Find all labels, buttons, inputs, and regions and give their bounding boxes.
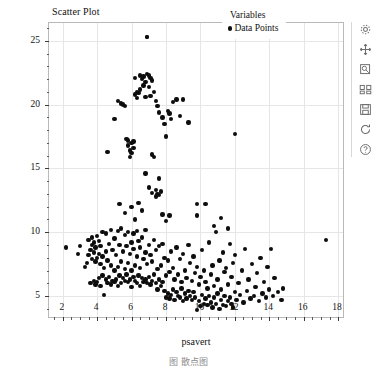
data-point (219, 298, 223, 302)
data-point (238, 293, 242, 297)
data-point (219, 216, 223, 220)
data-point (245, 289, 249, 293)
x-tick-minor (243, 317, 244, 320)
data-point (166, 258, 170, 262)
pan-icon[interactable] (358, 42, 373, 57)
data-point (105, 258, 109, 262)
data-point (129, 151, 133, 155)
data-point (100, 254, 104, 258)
data-point (160, 212, 164, 216)
data-point (154, 99, 158, 103)
legend-entries: Data Points (228, 22, 278, 35)
data-point (105, 150, 109, 154)
data-point (222, 294, 226, 298)
data-point (226, 282, 230, 286)
data-point (210, 263, 214, 267)
data-point (212, 224, 216, 228)
data-point (167, 111, 171, 115)
data-point (229, 275, 233, 279)
data-point (133, 263, 137, 267)
x-tick-major (338, 317, 339, 321)
data-point (126, 230, 130, 234)
data-point (207, 240, 211, 244)
data-point (143, 250, 147, 254)
x-tick-minor (278, 317, 279, 320)
data-point (112, 117, 116, 121)
data-point (174, 97, 178, 101)
data-point (152, 272, 156, 276)
data-point (150, 259, 154, 263)
data-point (138, 87, 142, 91)
data-point (131, 139, 135, 143)
data-point (214, 302, 218, 306)
data-point (269, 247, 273, 251)
plot-axes[interactable] (48, 22, 344, 318)
data-point (138, 245, 142, 249)
data-point (262, 280, 266, 284)
reset-icon[interactable] (358, 122, 373, 137)
data-point (136, 91, 140, 95)
data-point (157, 110, 161, 114)
data-point (116, 265, 120, 269)
data-point (83, 265, 87, 269)
data-point (264, 295, 268, 299)
x-tick-minor (114, 317, 115, 320)
data-point (131, 146, 135, 150)
data-point (186, 120, 190, 124)
data-point (119, 259, 123, 263)
data-point (178, 257, 182, 261)
data-point (186, 289, 190, 293)
data-point (147, 85, 151, 89)
data-point (141, 257, 145, 261)
data-point (93, 259, 97, 263)
zoom-rect-icon[interactable] (358, 62, 373, 77)
data-point (167, 270, 171, 274)
data-point (143, 171, 147, 175)
data-point (135, 254, 139, 258)
data-point (164, 273, 168, 277)
data-point (179, 280, 183, 284)
help-icon[interactable] (358, 142, 373, 157)
data-point (205, 286, 209, 290)
data-point (154, 281, 158, 285)
data-point (198, 275, 202, 279)
data-point (143, 228, 147, 232)
data-point (97, 239, 101, 243)
y-tick-label: 20 (0, 98, 40, 109)
data-point (255, 271, 259, 275)
data-point (138, 266, 142, 270)
configure-icon[interactable] (358, 22, 373, 37)
data-point (152, 90, 156, 94)
save-icon[interactable] (358, 102, 373, 117)
data-point (64, 245, 68, 249)
x-tick-minor (192, 317, 193, 320)
page-title: Scatter Plot (52, 6, 100, 18)
x-tick-minor (54, 317, 55, 320)
data-point (154, 194, 158, 198)
data-point (252, 294, 256, 298)
data-point (203, 202, 207, 206)
x-tick-label: 10 (195, 302, 205, 313)
data-point (231, 261, 235, 265)
data-point (193, 271, 197, 275)
data-point (102, 266, 106, 270)
data-point (226, 226, 230, 230)
data-point (107, 242, 111, 246)
data-point (241, 300, 245, 304)
data-point (92, 240, 96, 244)
data-point (140, 208, 144, 212)
data-point (240, 268, 244, 272)
data-point (150, 78, 154, 82)
figure-toolbar[interactable] (351, 22, 375, 157)
data-point (128, 252, 132, 256)
x-tick-minor (312, 317, 313, 320)
subplots-icon[interactable] (358, 82, 373, 97)
data-point (95, 234, 99, 238)
data-point (179, 286, 183, 290)
data-point (135, 229, 139, 233)
data-point (243, 247, 247, 251)
data-point (195, 202, 199, 206)
data-point (157, 176, 161, 180)
data-point (224, 266, 228, 270)
